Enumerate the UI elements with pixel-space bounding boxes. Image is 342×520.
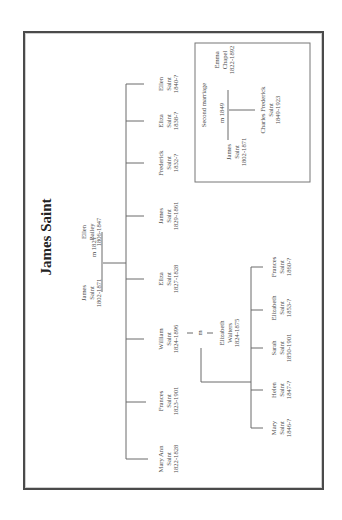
person-surname: Saint xyxy=(165,434,173,484)
person-name: Frederick xyxy=(157,138,165,188)
person-surname: Saint xyxy=(278,374,286,406)
person-name: Mary Ann xyxy=(157,434,165,484)
page-title: James Saint xyxy=(38,162,55,312)
person-dates: 1822-1828 xyxy=(172,434,180,484)
person-surname: Chapel xyxy=(221,36,229,84)
person-surname: Saint xyxy=(165,254,173,304)
child-1: Mary Ann Saint 1822-1828 xyxy=(157,434,180,484)
person-second-husband: James Saint 1802-1871 xyxy=(225,128,248,176)
person-name: Elizabeth xyxy=(218,308,226,358)
person-mother: Ellen Bailey 1806-1847 xyxy=(80,207,103,257)
grandchild-4: Elizabeth Saint 1853-? xyxy=(270,290,293,326)
person-name: Emma xyxy=(213,36,221,84)
marriage-text: m 1849 xyxy=(218,93,226,133)
person-name: Charles Frederick xyxy=(259,74,267,146)
person-name: Eliza xyxy=(157,254,165,304)
person-name: Sarah xyxy=(270,328,278,368)
grandchild-2: Helen Saint 1847-? xyxy=(270,374,293,406)
person-dates: 1802-1871 xyxy=(240,128,248,176)
person-name: Eliza xyxy=(157,101,165,141)
person-name: Frances xyxy=(270,249,278,285)
child-4: Eliza Saint 1827-1828 xyxy=(157,254,180,304)
person-name: Ellen xyxy=(157,64,165,104)
person-name: James xyxy=(225,128,233,176)
person-surname: Saint xyxy=(267,74,275,146)
person-surname: Saint xyxy=(165,64,173,104)
person-surname: Saint xyxy=(165,138,173,188)
person-william-spouse: Elizabeth Walters 1824-1875 xyxy=(218,308,241,358)
person-surname: Saint xyxy=(165,314,173,364)
person-dates: 1853-? xyxy=(285,290,293,326)
person-surname: Walters xyxy=(226,308,234,358)
person-dates: 1849-1923 xyxy=(274,74,282,146)
person-dates: 1824-1896 xyxy=(172,314,180,364)
person-dates: 1860-? xyxy=(285,249,293,285)
person-surname: Saint xyxy=(88,268,96,318)
person-dates: 1827-1828 xyxy=(172,254,180,304)
person-surname: Saint xyxy=(165,191,173,241)
person-surname: Saint xyxy=(278,249,286,285)
person-surname: Bailey xyxy=(88,207,96,257)
person-dates: 1802-1871 xyxy=(95,268,103,318)
person-dates: 1829-1861 xyxy=(172,191,180,241)
person-name: Elizabeth xyxy=(270,290,278,326)
person-dates: 1822-1892 xyxy=(228,36,236,84)
person-surname: Saint xyxy=(278,290,286,326)
person-dates: 1824-1875 xyxy=(233,308,241,358)
person-name: Mary xyxy=(270,412,278,444)
person-dates: 1806-1847 xyxy=(95,207,103,257)
person-name: Frances xyxy=(157,376,165,426)
marriage-text: m xyxy=(196,328,204,338)
person-surname: Saint xyxy=(233,128,241,176)
grandchild-5: Frances Saint 1860-? xyxy=(270,249,293,285)
person-dates: 1840-? xyxy=(172,64,180,104)
person-father: James Saint 1802-1871 xyxy=(80,268,103,318)
person-dates: 1847-? xyxy=(285,374,293,406)
child-7: Eliza Saint 1838-? xyxy=(157,101,180,141)
grandchild-1: Mary Saint 1846-? xyxy=(270,412,293,444)
person-name: James xyxy=(80,268,88,318)
person-surname: Saint xyxy=(165,101,173,141)
person-dates: 1832-? xyxy=(172,138,180,188)
person-second-wife: Emma Chapel 1822-1892 xyxy=(213,36,236,84)
person-surname: Saint xyxy=(278,412,286,444)
william-marriage-marker: m xyxy=(196,328,204,338)
person-name: James xyxy=(157,191,165,241)
person-name: Ellen xyxy=(80,207,88,257)
child-8: Ellen Saint 1840-? xyxy=(157,64,180,104)
person-name: Helen xyxy=(270,374,278,406)
person-surname: Saint xyxy=(278,328,286,368)
person-dates: 1838-? xyxy=(172,101,180,141)
person-name: William xyxy=(157,314,165,364)
child-2: Frances Saint 1823-1901 xyxy=(157,376,180,426)
person-dates: 1850-1901 xyxy=(285,328,293,368)
child-3: William Saint 1824-1896 xyxy=(157,314,180,364)
heading-text: Second marriage xyxy=(200,55,208,155)
second-marriage-label: m 1849 xyxy=(218,93,226,133)
child-6: Frederick Saint 1832-? xyxy=(157,138,180,188)
child-5: James Saint 1829-1861 xyxy=(157,191,180,241)
person-dates: 1846-? xyxy=(285,412,293,444)
person-second-child: Charles Frederick Saint 1849-1923 xyxy=(259,74,282,146)
person-surname: Saint xyxy=(165,376,173,426)
grandchild-3: Sarah Saint 1850-1901 xyxy=(270,328,293,368)
title-text: James Saint xyxy=(38,162,55,312)
second-marriage-heading: Second marriage xyxy=(200,55,208,155)
person-dates: 1823-1901 xyxy=(172,376,180,426)
